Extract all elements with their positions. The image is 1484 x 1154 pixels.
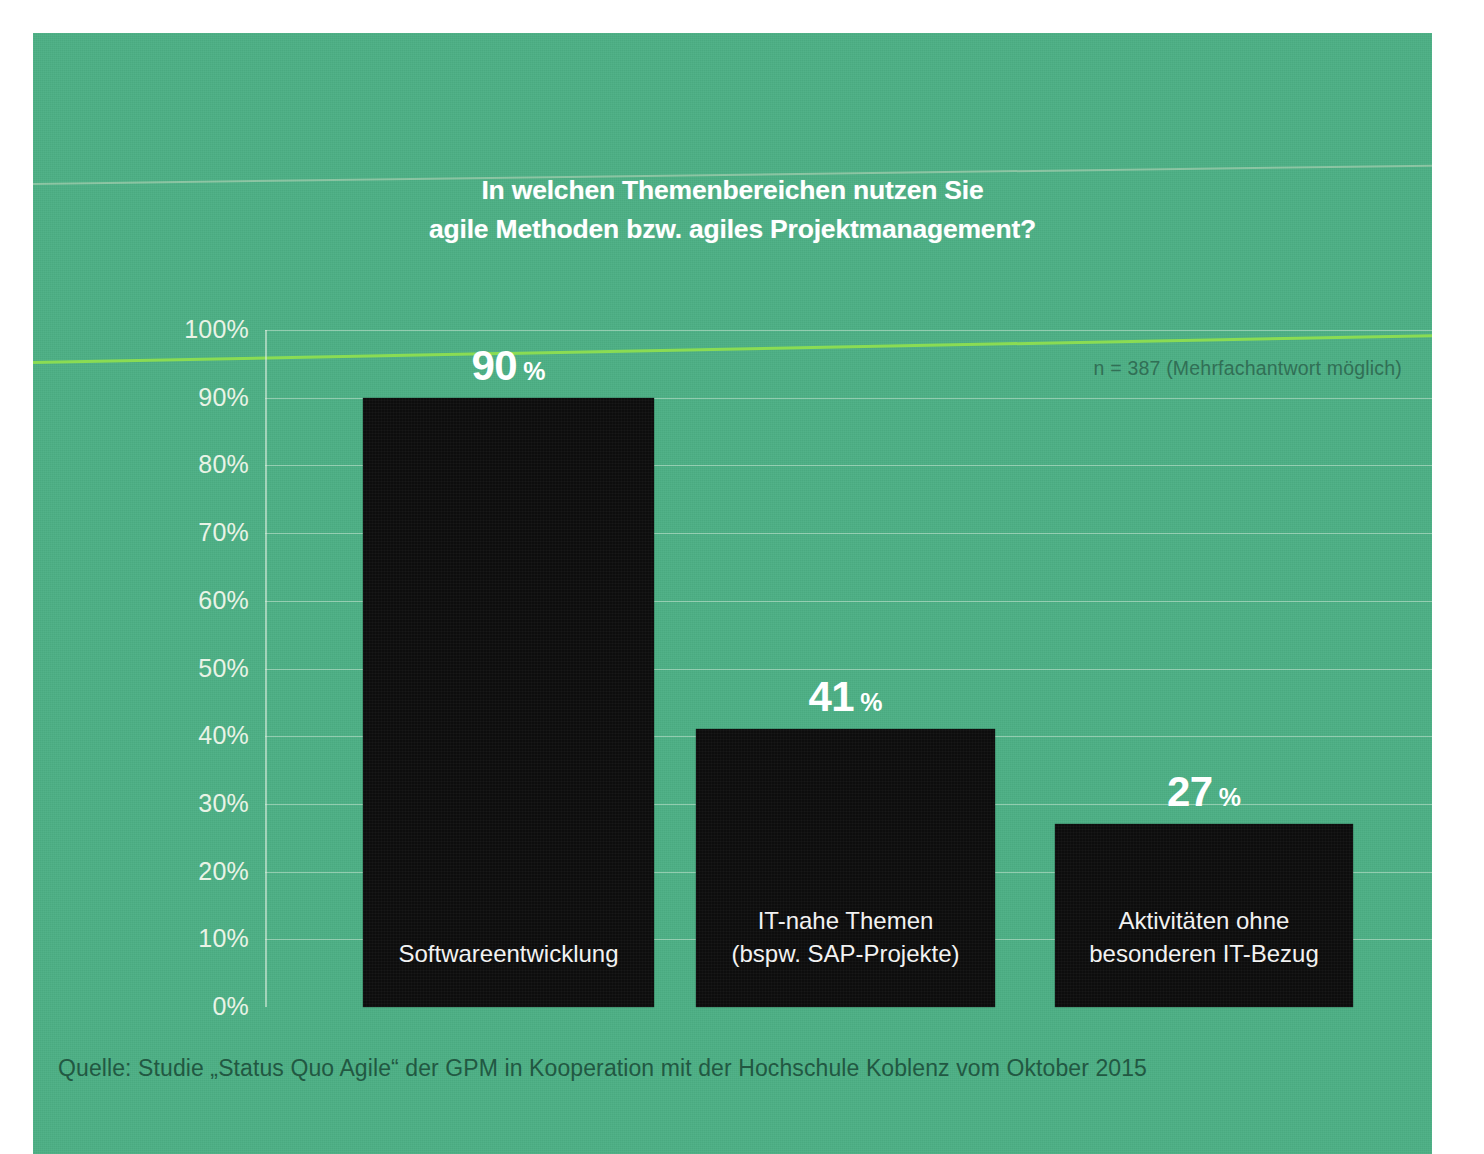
chart-title-line-2: agile Methoden bzw. agiles Projektmanage… <box>33 210 1432 249</box>
bar-value-label: 41% <box>696 673 995 721</box>
bar-category-label-line-1: IT-nahe Themen <box>696 904 995 937</box>
y-axis-tick-label: 40% <box>129 723 249 748</box>
bar-category-label-line-1: Aktivitäten ohne <box>1055 904 1353 937</box>
bar-category-label: Aktivitäten ohnebesonderen IT-Bezug <box>1055 904 1353 970</box>
y-axis-tick-label: 70% <box>129 520 249 545</box>
chart-title-line-1: In welchen Themenbereichen nutzen Sie <box>33 171 1432 210</box>
bar[interactable]: IT-nahe Themen(bspw. SAP-Projekte) <box>696 729 995 1007</box>
bar[interactable]: Softwareentwicklung <box>363 398 654 1007</box>
y-axis-tick-label: 50% <box>129 656 249 681</box>
bar-value-unit: % <box>523 357 545 385</box>
source-note: Quelle: Studie „Status Quo Agile“ der GP… <box>58 1055 1147 1082</box>
y-axis-tick-label: 30% <box>129 791 249 816</box>
bar-value-number: 41 <box>809 673 855 720</box>
bar-value-number: 27 <box>1167 768 1213 815</box>
y-axis-tick-label: 90% <box>129 385 249 410</box>
y-axis-tick-label: 80% <box>129 452 249 477</box>
gridline <box>265 330 1432 331</box>
bar-value-unit: % <box>1219 783 1241 811</box>
y-axis-tick-label: 100% <box>129 317 249 342</box>
chart-title: In welchen Themenbereichen nutzen Sie ag… <box>33 171 1432 249</box>
bar-value-unit: % <box>860 688 882 716</box>
bar-value-label: 90% <box>363 342 654 390</box>
bar-texture <box>696 729 995 1007</box>
bar-texture <box>363 398 654 1007</box>
figure-page: In welchen Themenbereichen nutzen Sie ag… <box>0 0 1484 1154</box>
bar-category-label-line-2: besonderen IT-Bezug <box>1055 937 1353 970</box>
y-axis-tick-label: 20% <box>129 859 249 884</box>
chart-panel: In welchen Themenbereichen nutzen Sie ag… <box>33 33 1432 1154</box>
y-axis-tick-label: 10% <box>129 926 249 951</box>
bar-texture <box>1055 824 1353 1007</box>
bar[interactable]: Aktivitäten ohnebesonderen IT-Bezug <box>1055 824 1353 1007</box>
y-axis-tick-label: 60% <box>129 588 249 613</box>
plot-area: 100%90%80%70%60%50%40%30%20%10%0% Softwa… <box>265 330 1432 1007</box>
bar-category-label-line-1: Softwareentwicklung <box>363 937 654 970</box>
bar-category-label: IT-nahe Themen(bspw. SAP-Projekte) <box>696 904 995 970</box>
bar-value-label: 27% <box>1055 768 1353 816</box>
bar-value-number: 90 <box>472 342 518 389</box>
y-axis-tick-label: 0% <box>129 994 249 1019</box>
bar-category-label: Softwareentwicklung <box>363 937 654 970</box>
bar-category-label-line-2: (bspw. SAP-Projekte) <box>696 937 995 970</box>
